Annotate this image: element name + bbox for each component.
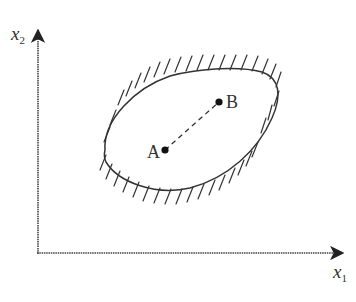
point-a-label: A xyxy=(147,143,160,161)
y-axis-label: x2 xyxy=(11,24,25,46)
boundary-hatching xyxy=(100,55,281,204)
point-a xyxy=(161,146,168,153)
diagram-canvas xyxy=(0,0,356,302)
segment-ab xyxy=(165,102,219,150)
x-axis-sub: 1 xyxy=(341,272,347,284)
x-axis-label: x1 xyxy=(333,262,347,284)
y-axis-sub: 2 xyxy=(19,34,25,46)
point-b-label: B xyxy=(226,93,238,111)
point-b xyxy=(215,98,222,105)
region-boundary xyxy=(104,69,278,191)
